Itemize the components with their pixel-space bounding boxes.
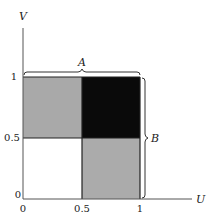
unit-square-diagram: V U 1 0.5 0 0 0.5 1 A B (0, 0, 207, 221)
brace-top (24, 69, 140, 75)
y-tick-1: 1 (11, 71, 17, 82)
x-tick-1: 1 (137, 203, 143, 214)
region-top-right (82, 77, 140, 138)
brace-right-label: B (150, 132, 159, 145)
y-tick-0.5: 0.5 (4, 132, 20, 143)
region-top-left (23, 77, 82, 138)
x-tick-0.5: 0.5 (74, 203, 90, 214)
region-bottom-right (82, 138, 140, 199)
region-bottom-left (23, 138, 82, 199)
v-axis-label: V (19, 10, 28, 23)
y-tick-0: 0 (15, 189, 21, 200)
u-axis-label: U (196, 193, 206, 206)
brace-right (142, 78, 148, 198)
x-tick-0: 0 (20, 203, 26, 214)
brace-top-label: A (77, 56, 86, 69)
